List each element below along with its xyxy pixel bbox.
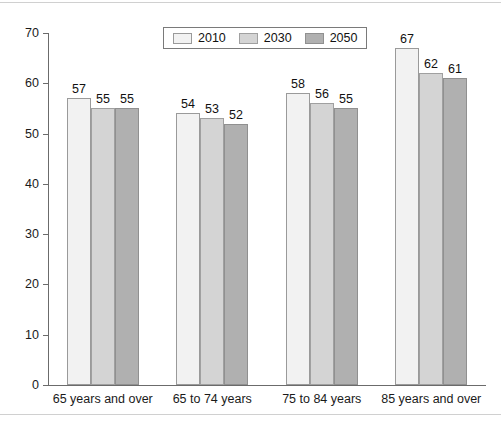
bar-2030-1 [91,108,115,385]
legend-item-2030[interactable]: 2030 [239,32,292,45]
y-axis-tick [43,385,49,386]
legend-item-2010[interactable]: 2010 [173,32,226,45]
legend-label: 2030 [264,32,292,45]
y-axis-tick [43,234,49,235]
y-axis-tick-label: 70 [0,27,39,40]
y-axis-tick [43,134,49,135]
bar-2050-4 [443,78,467,385]
x-axis-line [48,385,486,386]
y-axis-tick [43,83,49,84]
bar-2010-2 [176,113,200,385]
legend-swatch-2030-icon [239,33,258,44]
y-axis-tick-label: 40 [0,178,39,191]
y-axis-tick-label: 60 [0,77,39,90]
y-axis-tick-label: 30 [0,228,39,241]
y-axis-tick [43,33,49,34]
legend-swatch-2050-icon [305,33,324,44]
y-axis-tick-label: 50 [0,128,39,141]
bar-2010-3 [286,93,310,385]
bar-2050-3 [334,108,358,385]
bar-value-label: 55 [328,93,364,106]
bar-2030-4 [419,73,443,385]
legend-swatch-2010-icon [173,33,192,44]
chart-legend: 201020302050 [163,27,367,49]
bar-2010-4 [395,48,419,385]
y-axis-tick-label: 20 [0,278,39,291]
legend-label: 2050 [330,32,358,45]
bar-2030-2 [200,118,224,385]
legend-label: 2010 [198,32,226,45]
bar-2050-2 [224,124,248,385]
grouped-bar-chart: 010203040506070 575555545352585655676261… [0,0,501,424]
bar-value-label: 67 [389,33,425,46]
bar-2010-1 [67,98,91,385]
y-axis-tick-label: 0 [0,379,39,392]
y-axis-tick-label: 10 [0,329,39,342]
bar-value-label: 52 [218,109,254,122]
bar-value-label: 61 [437,63,473,76]
y-axis-line [48,33,49,386]
bar-2050-1 [115,108,139,385]
x-axis-label-4: 85 years and over [361,392,501,407]
bar-2030-3 [310,103,334,385]
y-axis-tick [43,184,49,185]
y-axis-tick [43,284,49,285]
y-axis-tick [43,335,49,336]
legend-item-2050[interactable]: 2050 [305,32,358,45]
bar-value-label: 55 [109,93,145,106]
